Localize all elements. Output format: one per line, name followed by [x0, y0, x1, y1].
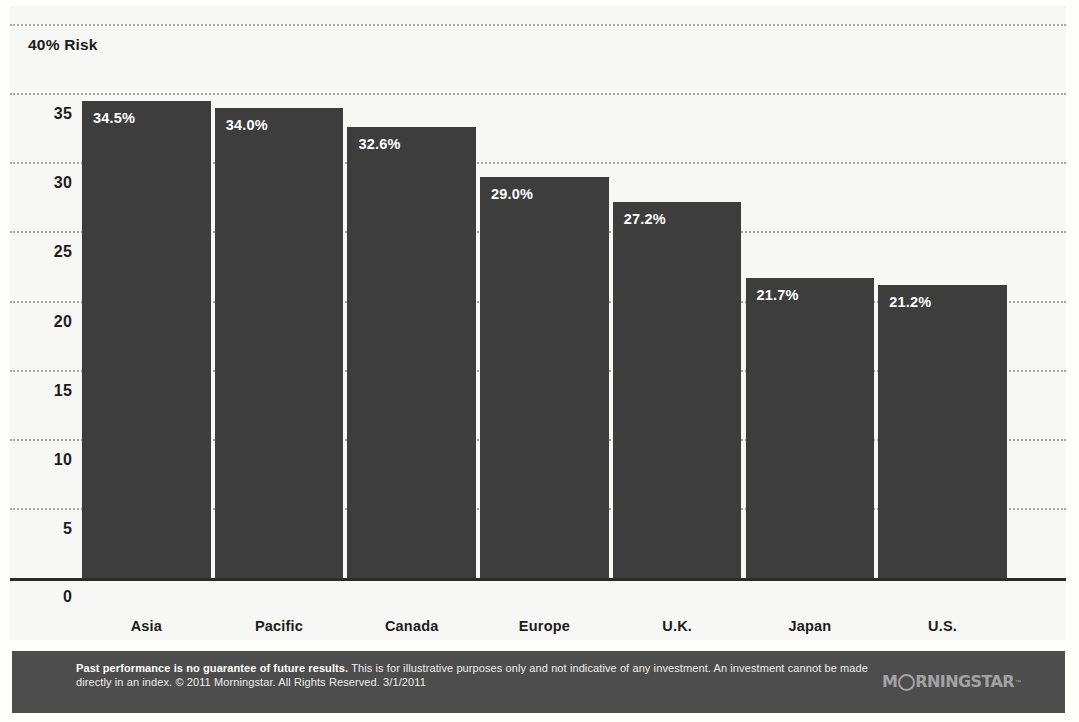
bar-value-label: 34.0% [226, 117, 268, 133]
x-label-japan: Japan [746, 618, 875, 634]
bar-canada: 32.6% [347, 127, 476, 578]
bar-value-label: 29.0% [491, 186, 533, 202]
y-tick-label-0: 0 [18, 588, 72, 606]
bar-japan: 21.7% [746, 278, 875, 578]
bar-europe: 29.0% [480, 177, 609, 578]
footer-disclaimer-band: Past performance is no guarantee of futu… [12, 651, 1065, 713]
y-tick-label-15: 15 [18, 382, 72, 400]
bar-value-label: 21.2% [889, 294, 931, 310]
footer-disclaimer-bold: Past performance is no guarantee of futu… [76, 662, 348, 674]
y-tick-label-10: 10 [18, 451, 72, 469]
trademark-symbol: ™ [1015, 679, 1021, 685]
x-label-asia: Asia [82, 618, 211, 634]
footer-disclaimer-text: Past performance is no guarantee of futu… [76, 662, 876, 689]
x-axis-baseline [10, 578, 1066, 581]
bar-uk: 27.2% [613, 202, 742, 578]
gridline-40 [10, 24, 1066, 26]
logo-suffix-text: RNINGSTAR [915, 672, 1014, 691]
y-tick-label-30: 30 [18, 174, 72, 192]
y-tick-label-5: 5 [18, 520, 72, 538]
bar-pacific: 34.0% [215, 108, 344, 578]
chart-page: 05101520253035 40% Risk 34.5%34.0%32.6%2… [0, 0, 1079, 722]
y-tick-label-35: 35 [18, 105, 72, 123]
bar-value-label: 32.6% [358, 136, 400, 152]
x-label-uk: U.K. [613, 618, 742, 634]
y-tick-label-20: 20 [18, 313, 72, 331]
x-label-us: U.S. [878, 618, 1007, 634]
gridline-35 [10, 93, 1066, 95]
logo-prefix-text: M [882, 672, 897, 691]
axis-header-label: 40% Risk [28, 36, 98, 54]
x-label-europe: Europe [480, 618, 609, 634]
bar-us: 21.2% [878, 285, 1007, 578]
bar-value-label: 34.5% [93, 110, 135, 126]
morningstar-logo: M RNINGSTAR ™ [882, 672, 1021, 691]
bar-asia: 34.5% [82, 101, 211, 578]
y-tick-label-25: 25 [18, 243, 72, 261]
x-label-pacific: Pacific [215, 618, 344, 634]
bar-value-label: 27.2% [624, 211, 666, 227]
sun-circle-icon [898, 674, 915, 691]
x-label-canada: Canada [347, 618, 476, 634]
bar-value-label: 21.7% [757, 287, 799, 303]
